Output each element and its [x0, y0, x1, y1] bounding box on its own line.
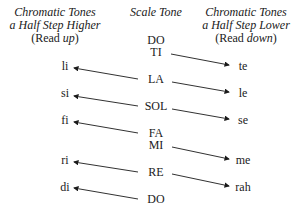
arrow-do-di: [74, 188, 138, 199]
arrow-sol-si: [74, 96, 138, 106]
arrow-fa-fi: [74, 122, 138, 133]
arrow-sol-se: [172, 109, 229, 119]
arrow-re-ri: [74, 162, 138, 172]
arrow-la-le: [172, 82, 229, 92]
arrows: [0, 0, 300, 215]
arrow-re-rah: [172, 174, 229, 186]
arrow-mi-me: [172, 147, 229, 159]
arrow-la-li: [74, 68, 138, 79]
arrow-ti-te: [171, 54, 229, 65]
